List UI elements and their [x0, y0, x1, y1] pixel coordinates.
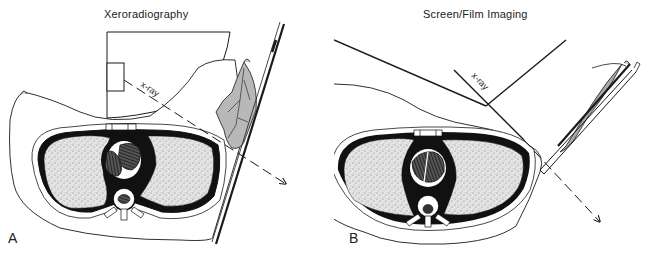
- torso-cross-section-icon: [334, 82, 542, 244]
- compression-paddle-icon: [486, 40, 566, 106]
- panel-screen-film: Screen/Film Imaging B: [334, 0, 668, 257]
- screen-film-diagram: x-ray: [334, 0, 668, 257]
- film-cassette-icon: [540, 62, 640, 174]
- panel-xeroradiography: Xeroradiography A: [0, 0, 334, 257]
- xray-beam-arrow: [524, 140, 600, 222]
- xeroradiography-diagram: x-ray: [0, 0, 334, 257]
